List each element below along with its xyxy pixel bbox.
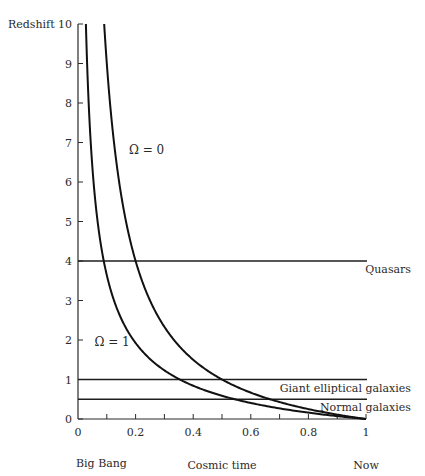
y-axis-ticks: 012345678910	[58, 18, 83, 426]
redshift-vs-cosmic-time-chart: 012345678910 00.20.40.60.81 QuasarsGiant…	[0, 0, 425, 476]
y-tick-label: 8	[65, 97, 72, 110]
y-tick-label: 6	[65, 176, 72, 189]
x-tick-label: 0.2	[127, 426, 145, 439]
x-tick-label: 0.6	[242, 426, 260, 439]
y-tick-label: 7	[65, 137, 72, 150]
y-tick-label: 9	[65, 58, 72, 71]
series-curve-omega-0	[104, 24, 366, 419]
reference-line-label: Quasars	[365, 263, 411, 276]
x-axis-title: Cosmic time	[187, 459, 256, 472]
reference-line-label: Giant elliptical galaxies	[280, 382, 412, 395]
y-axis-title: Redshift	[8, 18, 55, 31]
y-tick-label: 1	[65, 374, 72, 387]
x-tick-label: 1	[363, 426, 370, 439]
x-tick-label: 0.4	[184, 426, 202, 439]
x-axis-start-label: Big Bang	[76, 457, 127, 470]
x-tick-label: 0	[75, 426, 82, 439]
y-tick-label: 0	[65, 413, 72, 426]
series-curves	[86, 24, 366, 419]
y-tick-label: 5	[65, 216, 72, 229]
curve-label-omega-1: Ω = 1	[94, 335, 129, 349]
series-curve-omega-1	[86, 24, 366, 419]
y-tick-label: 2	[65, 334, 72, 347]
x-axis-ticks: 00.20.40.60.81	[75, 414, 370, 439]
x-tick-label: 0.8	[300, 426, 318, 439]
reference-line-label: Normal galaxies	[320, 401, 411, 414]
y-tick-label: 10	[58, 18, 72, 31]
y-tick-label: 3	[65, 295, 72, 308]
y-tick-label: 4	[65, 255, 72, 268]
x-axis-end-label: Now	[353, 459, 379, 472]
curve-label-omega-0: Ω = 0	[129, 143, 164, 157]
